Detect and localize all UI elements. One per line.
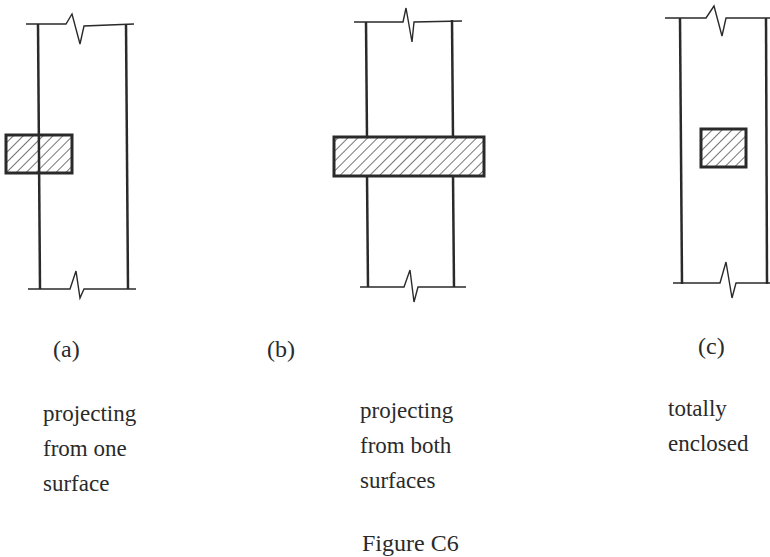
hatched-block-enclosed <box>701 129 746 167</box>
panel-label-c: (c) <box>698 330 725 362</box>
description-line: surface <box>43 466 136 501</box>
description-line: surfaces <box>360 463 453 498</box>
wall-right-surface-upper <box>452 20 453 138</box>
panel-description-a: projecting from one surface <box>43 396 136 501</box>
description-line: from both <box>360 428 453 463</box>
break-line-bottom <box>360 270 466 302</box>
description-line: totally <box>668 391 748 426</box>
panel-label-b: (b) <box>267 333 295 365</box>
break-line-bottom <box>28 271 136 298</box>
description-line: projecting <box>360 393 453 428</box>
hatched-block-projecting-one <box>6 135 72 173</box>
hatched-block-projecting-both <box>334 137 484 176</box>
description-line: projecting <box>43 396 136 431</box>
description-line: from one <box>43 431 136 466</box>
panel-label-a: (a) <box>53 333 80 365</box>
panel-c-wall <box>665 6 770 298</box>
panel-a-wall <box>6 14 136 298</box>
break-line-bottom <box>673 262 770 298</box>
description-line: enclosed <box>668 426 748 461</box>
wall-left-surface-upper <box>366 22 367 138</box>
wall-right-surface-lower <box>453 175 454 287</box>
panel-b-wall <box>334 8 484 302</box>
wall-right-surface <box>126 24 128 289</box>
wall-left-surface-lower <box>367 175 368 287</box>
wall-left-surface <box>680 18 682 284</box>
wall-right-surface <box>766 18 767 284</box>
figure-caption: Figure C6 <box>362 530 459 557</box>
break-line-top <box>26 14 134 44</box>
panel-description-c: totally enclosed <box>668 391 748 461</box>
panel-description-b: projecting from both surfaces <box>360 393 453 498</box>
break-line-top <box>354 8 462 42</box>
